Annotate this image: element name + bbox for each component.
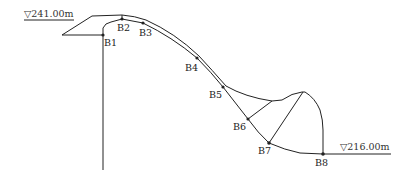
point-b4-marker: [195, 56, 198, 59]
point-b6-marker: [246, 117, 249, 120]
point-b2-label: B2: [117, 22, 130, 33]
point-b6-label: B6: [233, 121, 246, 132]
outer-slope-line: [122, 15, 226, 86]
point-b8-label: B8: [315, 157, 328, 168]
strut-b7: [269, 92, 303, 143]
point-b4-label: B4: [185, 62, 198, 73]
elevation-label-bottom: ▽216.00m: [340, 141, 390, 152]
point-b8-marker: [321, 152, 325, 156]
point-b7-label: B7: [258, 145, 271, 156]
point-b3-marker: [141, 21, 144, 24]
strut-b6: [248, 101, 272, 119]
point-b5-label: B5: [209, 89, 222, 100]
elevation-label-top: ▽241.00m: [24, 8, 74, 19]
inner-slope-line: [103, 19, 391, 154]
point-b2-marker: [120, 17, 123, 20]
slope-cross-section-diagram: ▽241.00m B1 B2 B3 B4 B5 B6 B7 B8 ▽216.00…: [0, 0, 413, 180]
point-b1-label: B1: [104, 37, 117, 48]
point-b3-label: B3: [139, 27, 152, 38]
landslide-body-outline: [226, 86, 323, 154]
